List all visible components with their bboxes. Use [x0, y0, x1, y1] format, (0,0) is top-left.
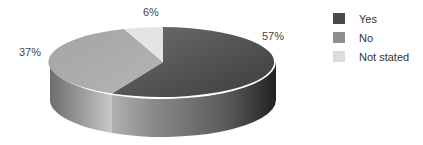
- legend-label: Not stated: [359, 51, 409, 63]
- label-no-pct: 37%: [19, 46, 41, 58]
- legend-item-no: No: [333, 28, 409, 47]
- legend-item-yes: Yes: [333, 9, 409, 28]
- legend-swatch-no: [333, 32, 345, 43]
- legend-swatch-yes: [333, 13, 345, 24]
- label-not-stated-pct: 6%: [143, 6, 159, 18]
- legend-swatch-not-stated: [333, 51, 345, 62]
- legend-label: Yes: [359, 13, 377, 25]
- legend: Yes No Not stated: [333, 9, 409, 66]
- legend-label: No: [359, 32, 373, 44]
- legend-item-not-stated: Not stated: [333, 47, 409, 66]
- label-yes-pct: 57%: [262, 30, 284, 42]
